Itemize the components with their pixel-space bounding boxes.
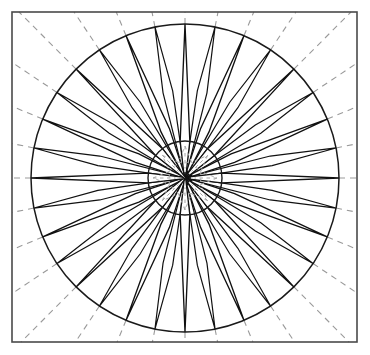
- star-point-major: [180, 172, 190, 332]
- star-point-major: [180, 24, 190, 184]
- star-point-major: [179, 173, 339, 183]
- star-point-major: [31, 173, 191, 183]
- figure-canvas: [0, 0, 370, 355]
- star-points-major-group: [31, 24, 339, 332]
- compass-rose-drawing: [0, 0, 370, 355]
